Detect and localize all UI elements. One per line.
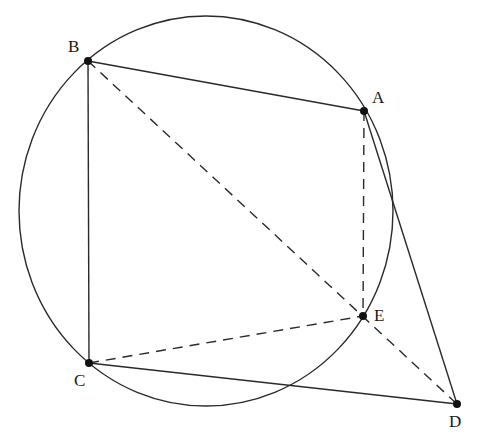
point-e (359, 312, 367, 320)
circle (19, 16, 393, 406)
segment-ad (364, 111, 457, 404)
point-b (84, 57, 92, 65)
point-c (85, 359, 93, 367)
segment-bc (88, 61, 89, 363)
geometry-diagram: A B C D E (0, 0, 491, 439)
point-d (453, 400, 461, 408)
point-a (360, 107, 368, 115)
segment-ce (89, 316, 363, 363)
segment-ae (363, 111, 364, 316)
label-d: D (449, 413, 461, 430)
label-c: C (74, 372, 85, 389)
segments (88, 61, 457, 404)
label-e: E (374, 307, 384, 324)
label-b: B (68, 38, 79, 55)
label-a: A (372, 89, 384, 106)
segment-bd (88, 61, 457, 404)
segment-cd (89, 363, 457, 404)
segment-ba (88, 61, 364, 111)
